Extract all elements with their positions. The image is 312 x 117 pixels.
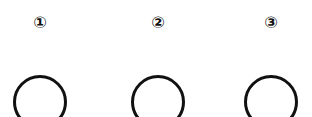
step-2-circle <box>131 75 185 117</box>
step-3-circle <box>244 75 298 117</box>
step-2-number: ② <box>146 13 170 33</box>
step-1-circle <box>13 75 67 117</box>
step-1-number: ① <box>28 13 52 33</box>
step-3-number: ③ <box>259 13 283 33</box>
